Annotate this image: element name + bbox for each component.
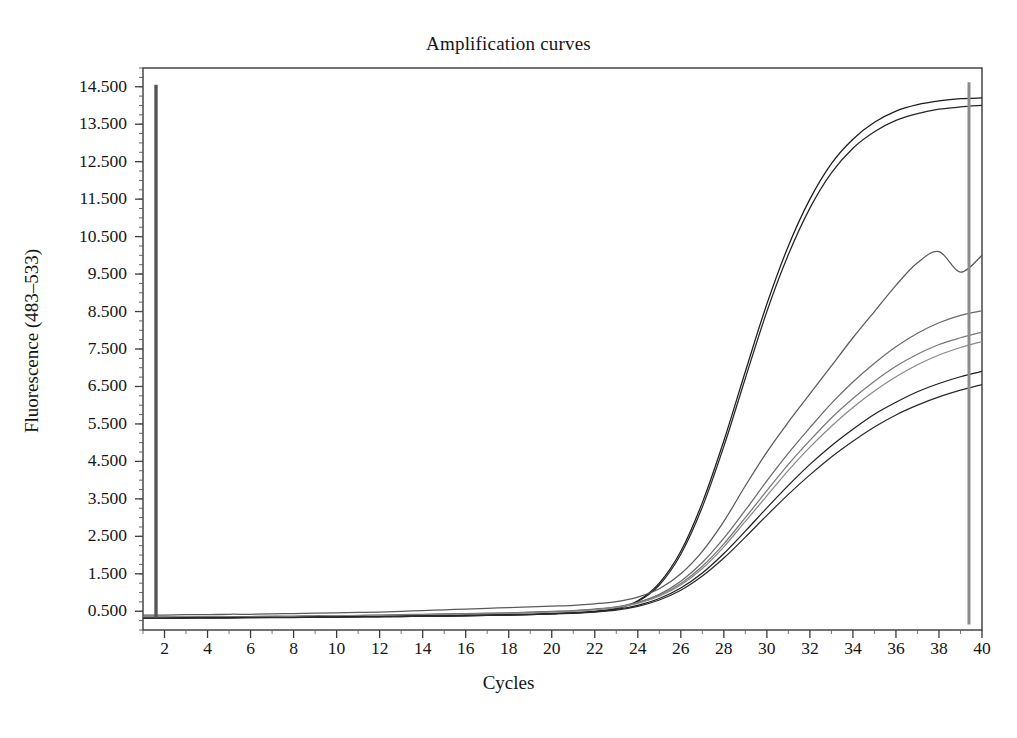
- plot-frame: [143, 68, 982, 630]
- chart-figure: Amplification curves Fluorescence (483–5…: [0, 0, 1017, 738]
- plot-area: [0, 0, 1017, 738]
